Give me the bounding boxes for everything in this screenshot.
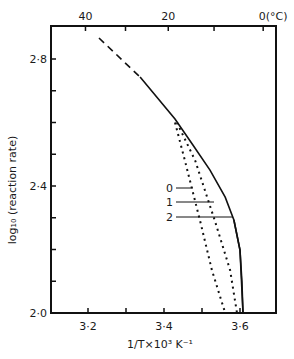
y-tick-label: 2·0 <box>30 307 48 320</box>
top-tick-label: 0(°C) <box>259 10 288 23</box>
curve-label-1: 1 <box>166 196 173 209</box>
curve-main <box>140 77 243 313</box>
curve-labels: 012 <box>166 182 233 224</box>
plot-frame <box>51 26 276 313</box>
top-axis-ticks: 40200(°C) <box>78 10 287 31</box>
curves <box>99 38 243 313</box>
curve-0 <box>175 123 225 314</box>
y-tick-label: 2·8 <box>30 53 48 66</box>
curve-label-2: 2 <box>166 211 173 224</box>
top-tick-label: 40 <box>78 10 92 23</box>
y-axis-title: log₁₀ (reaction rate) <box>6 136 19 244</box>
x-tick-label: 3·4 <box>155 320 173 333</box>
chart: 3·23·43·6 2·02·42·8 40200(°C) 012 1/T×10… <box>0 0 294 359</box>
x-axis-title: 1/T×10³ K⁻¹ <box>127 338 193 351</box>
top-tick-label: 20 <box>161 10 175 23</box>
y-tick-label: 2·4 <box>30 180 48 193</box>
y-axis-ticks: 2·02·42·8 <box>30 53 57 320</box>
curve-label-0: 0 <box>166 182 173 195</box>
x-axis-ticks: 3·23·43·6 <box>79 308 249 333</box>
x-tick-label: 3·2 <box>79 320 97 333</box>
curve-main-extrapolated- <box>99 38 140 77</box>
x-tick-label: 3·6 <box>231 320 249 333</box>
curve-1 <box>177 123 237 314</box>
